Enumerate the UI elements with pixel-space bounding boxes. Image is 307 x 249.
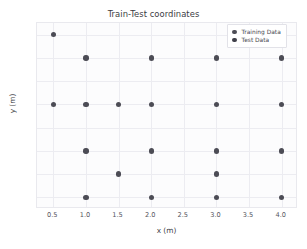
legend-label-training: Training Data [242,28,281,36]
data-point [116,171,121,176]
legend-label-test: Test Data [242,36,270,44]
data-point [214,171,219,176]
x-axis-label: x (m) [36,226,297,235]
data-point [214,102,219,107]
data-point [83,195,88,200]
test-marker-icon [232,38,237,43]
data-point [214,55,219,60]
chart-title: Train-Test coordinates [0,9,307,19]
data-point [116,102,121,107]
data-point [51,102,56,107]
legend-item-test[interactable]: Test Data [232,36,281,44]
legend-item-training[interactable]: Training Data [232,28,281,36]
chart-legend: Training Data Test Data [227,24,287,48]
data-point [279,195,284,200]
data-point [214,148,219,153]
x-tick-label-4.0: 4.0 [261,211,301,219]
data-point [149,102,154,107]
y-axis-label: y (m) [8,74,17,134]
training-marker-icon [232,30,237,35]
data-point [83,102,88,107]
data-point [279,55,284,60]
data-point [149,195,154,200]
data-point [214,195,219,200]
data-point [279,102,284,107]
data-points-layer [37,23,296,207]
data-point [51,32,56,37]
plot-area [36,22,297,208]
data-point [83,55,88,60]
data-point [83,148,88,153]
data-point [149,148,154,153]
scatter-chart-figure: Train-Test coordinates 1.01.52.02.53.03.… [0,0,307,249]
data-point [279,148,284,153]
data-point [149,55,154,60]
